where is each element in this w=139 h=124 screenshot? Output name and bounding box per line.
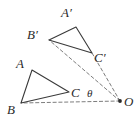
label-C: C [71, 86, 80, 99]
label-C-prime: C′ [94, 51, 106, 64]
label-A: A [16, 57, 24, 70]
geometry-figure: A′ B′ C′ A B C θ O [0, 0, 139, 124]
triangle-A-prime-B-prime-C-prime [49, 27, 92, 53]
ray-O-to-B-prime [49, 40, 120, 101]
triangle-ABC [21, 70, 69, 103]
ray-O-to-B [21, 101, 120, 103]
label-A-prime: A′ [61, 6, 72, 19]
label-B-prime: B′ [27, 28, 38, 41]
point-O-marker [118, 99, 122, 103]
label-theta: θ [87, 88, 92, 99]
label-B: B [7, 103, 15, 116]
label-O: O [124, 95, 133, 108]
